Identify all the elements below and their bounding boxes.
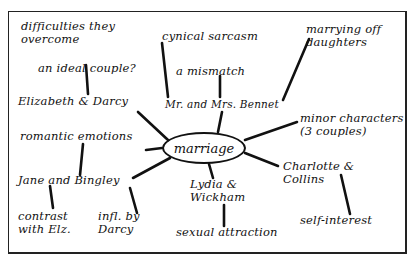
edge-hub-jane <box>133 158 170 178</box>
node-romantic-emotions: romantic emotions <box>20 130 133 143</box>
central-node-label: marriage <box>174 141 234 156</box>
node-sexual-attraction: sexual attraction <box>176 226 278 239</box>
edge-hub-lydia <box>209 164 213 178</box>
edge-bennet-cynical <box>162 43 168 97</box>
node-elizabeth-darcy: Elizabeth & Darcy <box>18 95 128 108</box>
edge-hub-bennet <box>218 112 222 132</box>
node-contrast: contrast with Elz. <box>18 210 71 236</box>
node-marrying-off: marrying off daughters <box>306 23 381 49</box>
node-charlotte-collins: Charlotte & Collins <box>283 160 354 186</box>
node-self-interest: self-interest <box>300 214 372 227</box>
edge-hub-elizabeth-darcy <box>138 112 168 140</box>
node-bennet: Mr. and Mrs. Bennet <box>165 98 279 111</box>
node-infl-darcy: infl. by Darcy <box>98 210 140 236</box>
edge-romantic-jane <box>80 144 83 175</box>
edge-jane-contrast <box>50 186 53 208</box>
node-lydia-wickham: Lydia & Wickham <box>190 178 245 204</box>
edge-hub-charlotte <box>245 153 278 166</box>
node-minor-characters: minor characters (3 couples) <box>300 112 404 138</box>
node-ideal-couple: an ideal couple? <box>38 62 136 75</box>
node-difficulties: difficulties they overcome <box>21 20 115 46</box>
node-mismatch: a mismatch <box>176 65 245 78</box>
edge-hub-minor <box>245 122 297 140</box>
edge-hub-romantic <box>146 148 162 150</box>
node-jane-bingley: Jane and Bingley <box>18 174 120 187</box>
node-cynical-sarcasm: cynical sarcasm <box>162 30 258 43</box>
central-node-marriage: marriage <box>162 132 246 164</box>
